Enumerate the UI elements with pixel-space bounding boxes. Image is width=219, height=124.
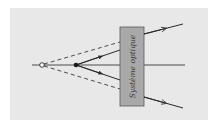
optical-system-box: Système optique [120, 27, 144, 106]
optical-system-diagram: Système optique [0, 0, 219, 124]
optical-system-label: Système optique [128, 34, 137, 98]
virtual-point-icon [40, 63, 45, 68]
diagram-canvas: Système optique [0, 0, 219, 124]
real-point-icon [74, 63, 79, 68]
